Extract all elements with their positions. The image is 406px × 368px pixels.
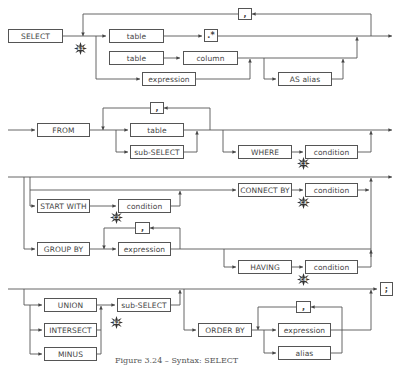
select-expression-box: expression [142, 72, 196, 86]
select-table-box: table [109, 29, 164, 43]
marker-c4-icon: C4 [297, 273, 310, 286]
group-by-keyword: GROUP BY [37, 242, 90, 256]
select-keyword: SELECT [8, 29, 63, 43]
marker-e2-label: E2 [110, 316, 123, 329]
connect-by-keyword: CONNECT BY [238, 183, 292, 197]
start-with-condition-box: condition [118, 199, 171, 213]
select-alias-box: AS alias [278, 72, 332, 86]
minus-keyword: MINUS [44, 347, 97, 361]
marker-c3-icon: C3 [297, 196, 310, 209]
connect-by-condition-box: condition [305, 183, 358, 197]
marker-c2-icon: C2 [110, 211, 123, 224]
select-star-box: .* [204, 29, 218, 42]
figure-caption: Figure 3.24 – Syntax: SELECT [115, 356, 238, 365]
union-keyword: UNION [44, 298, 97, 312]
marker-c1-icon: C1 [297, 157, 310, 170]
marker-e2-icon: E2 [110, 316, 123, 329]
select-column-box: column [183, 51, 238, 65]
select-syntax-diagram: SELECT , table .* table column expressio… [0, 0, 406, 368]
marker-c3-label: C3 [297, 196, 310, 209]
where-condition-box: condition [305, 145, 358, 159]
marker-e1-icon: E1 [74, 42, 87, 55]
order-comma-separator: , [296, 301, 311, 313]
marker-c4-label: C4 [297, 273, 310, 286]
select-table-prefix-box: table [109, 51, 164, 65]
start-with-keyword: START WITH [37, 199, 90, 213]
order-expression-box: expression [278, 323, 331, 337]
intersect-keyword: INTERSECT [44, 323, 97, 337]
marker-e1-label: E1 [74, 42, 87, 55]
having-condition-box: condition [305, 260, 358, 274]
having-keyword: HAVING [238, 260, 292, 274]
where-keyword: WHERE [238, 145, 292, 159]
select-comma-separator: , [238, 8, 252, 20]
marker-c1-label: C1 [297, 157, 310, 170]
statement-terminator: ; [380, 282, 393, 296]
order-by-keyword: ORDER BY [198, 323, 252, 337]
from-keyword: FROM [37, 123, 90, 137]
setop-subselect-box: sub-SELECT [117, 298, 171, 312]
group-comma-separator: , [135, 222, 150, 234]
from-table-box: table [130, 123, 184, 137]
group-expression-box: expression [118, 242, 171, 256]
from-subselect-box: sub-SELECT [130, 145, 184, 159]
order-alias-box: alias [278, 346, 331, 360]
from-comma-separator: , [150, 102, 164, 114]
marker-c2-label: C2 [110, 211, 123, 224]
